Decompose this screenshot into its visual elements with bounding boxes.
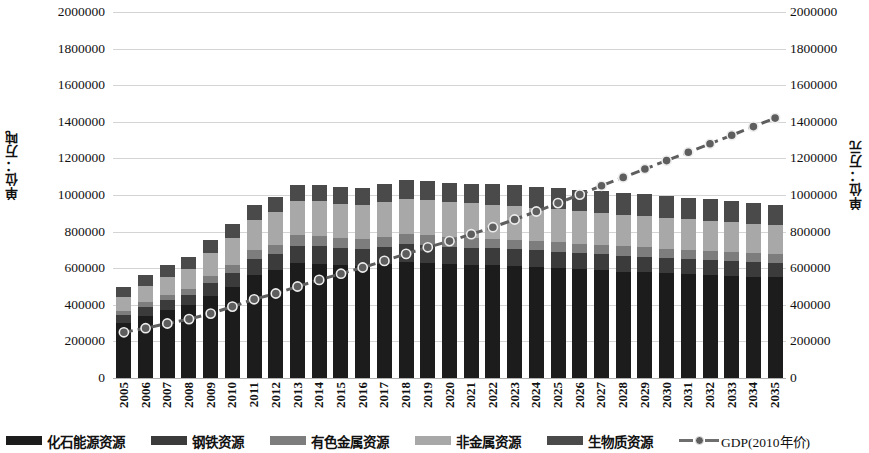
gdp-data-point	[228, 302, 237, 311]
y-axis-left-tick-label: 600000	[27, 261, 105, 275]
x-axis-tick-label: 2024	[529, 382, 542, 408]
gdp-data-point	[163, 319, 172, 328]
x-axis-tick-label: 2006	[139, 382, 152, 408]
gdp-data-point	[119, 328, 128, 337]
y-axis-right-tick-label: 600000	[790, 261, 831, 275]
x-axis-tick-label: 2021	[464, 382, 477, 408]
y-axis-left-title: 单位：万吨	[2, 130, 21, 200]
legend-label: GDP(2010年价)	[721, 431, 810, 451]
legend-item[interactable]: 钢铁资源	[151, 431, 244, 451]
gdp-data-point	[488, 223, 497, 232]
y-axis-right-tick-label: 1400000	[790, 115, 837, 129]
gdp-data-point	[771, 114, 780, 123]
gdp-data-point	[206, 309, 215, 318]
x-axis-tick-label: 2022	[486, 382, 499, 408]
x-axis-tick-label: 2013	[291, 382, 304, 408]
x-axis-tick-label: 2014	[312, 382, 325, 408]
x-axis-tick-label: 2009	[204, 382, 217, 408]
x-axis-tick-label: 2020	[443, 382, 456, 408]
gdp-data-point	[336, 269, 345, 278]
gdp-data-point	[532, 207, 541, 216]
y-axis-right-tick-label: 1800000	[790, 42, 837, 56]
gdp-data-point	[662, 156, 671, 165]
x-axis-tick-label: 2015	[334, 382, 347, 408]
legend-item[interactable]: GDP(2010年价)	[679, 431, 810, 451]
gdp-data-point	[250, 295, 259, 304]
x-axis-tick-label: 2012	[269, 382, 282, 408]
gdp-data-point	[619, 173, 628, 182]
y-axis-left-tick-label: 800000	[27, 225, 105, 239]
x-axis-tick-label: 2018	[399, 382, 412, 408]
x-axis-tick-label: 2029	[638, 382, 651, 408]
y-axis-right-title: 单位：万元	[846, 140, 865, 210]
y-axis-right-tick-label: 800000	[790, 225, 831, 239]
gdp-data-point	[467, 230, 476, 239]
y-axis-left-tick-label: 0	[27, 371, 105, 385]
legend-line-marker	[679, 435, 719, 446]
y-axis-right-tick-label: 400000	[790, 298, 831, 312]
legend-item[interactable]: 生物质资源	[547, 431, 653, 451]
y-axis-right-tick-label: 1000000	[790, 188, 837, 202]
x-axis-tick-label: 2007	[160, 382, 173, 408]
gdp-data-point	[141, 324, 150, 333]
x-axis-tick-label: 2010	[225, 382, 238, 408]
plot-area	[113, 12, 786, 378]
x-axis-tick-label: 2034	[746, 382, 759, 408]
x-axis-tick-label: 2005	[117, 382, 130, 408]
x-axis-tick-label: 2008	[182, 382, 195, 408]
gdp-data-point	[640, 164, 649, 173]
x-axis-tick-label: 2023	[508, 382, 521, 408]
legend-color-swatch	[547, 436, 583, 445]
gdp-data-point	[402, 249, 411, 258]
x-axis-tick-label: 2028	[616, 382, 629, 408]
x-axis-line	[113, 378, 786, 379]
legend-label: 有色金属资源	[311, 431, 389, 451]
gdp-data-point	[271, 289, 280, 298]
gdp-data-point	[597, 181, 606, 190]
chart-container: 单位：万吨 单位：万元 2000000180000016000001400000…	[0, 0, 869, 453]
legend-item[interactable]: 非金属资源	[415, 431, 521, 451]
y-axis-left-tick-label: 200000	[27, 334, 105, 348]
x-axis-tick-label: 2016	[356, 382, 369, 408]
gdp-data-point	[705, 139, 714, 148]
x-axis-tick-label: 2033	[725, 382, 738, 408]
gdp-data-point	[684, 148, 693, 157]
x-axis-tick-label: 2027	[594, 382, 607, 408]
gdp-data-point	[445, 237, 454, 246]
gdp-data-point	[315, 275, 324, 284]
legend-label: 生物质资源	[588, 431, 653, 451]
legend-item[interactable]: 化石能源资源	[6, 431, 125, 451]
x-axis-tick-label: 2019	[421, 382, 434, 408]
legend-label: 钢铁资源	[192, 431, 244, 451]
x-axis-tick-label: 2030	[660, 382, 673, 408]
gdp-data-point	[575, 190, 584, 199]
legend-color-swatch	[6, 436, 42, 445]
y-axis-left-tick-label: 1000000	[27, 188, 105, 202]
gdp-data-point	[380, 256, 389, 265]
gdp-data-point	[184, 315, 193, 324]
gdp-data-point	[553, 199, 562, 208]
legend-label: 化石能源资源	[47, 431, 125, 451]
x-axis-tick-label: 2035	[768, 382, 781, 408]
y-axis-left-tick-label: 2000000	[27, 5, 105, 19]
x-axis-tick-label: 2011	[247, 382, 260, 407]
y-axis-left-tick-label: 1800000	[27, 42, 105, 56]
x-axis-tick-label: 2026	[573, 382, 586, 408]
gdp-data-point	[510, 215, 519, 224]
y-axis-right-tick-label: 2000000	[790, 5, 837, 19]
gdp-line-path	[124, 118, 775, 332]
y-axis-left-tick-label: 1200000	[27, 151, 105, 165]
legend-item[interactable]: 有色金属资源	[270, 431, 389, 451]
y-axis-left-tick-label: 1400000	[27, 115, 105, 129]
x-axis-tick-label: 2025	[551, 382, 564, 408]
x-axis-tick-label: 2017	[377, 382, 390, 408]
legend-dot-icon	[695, 436, 704, 445]
legend-label: 非金属资源	[456, 431, 521, 451]
legend-color-swatch	[415, 436, 451, 445]
gdp-data-point	[423, 243, 432, 252]
x-axis-tick-label: 2032	[703, 382, 716, 408]
y-axis-left-tick-label: 1600000	[27, 78, 105, 92]
y-axis-right-tick-label: 0	[790, 371, 797, 385]
x-axis-tick-label: 2031	[681, 382, 694, 408]
gdp-line-series	[113, 12, 786, 378]
